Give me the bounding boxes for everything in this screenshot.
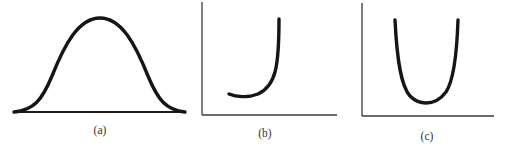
panel-c: (c) <box>362 3 494 143</box>
curve-shapes-figure: (a) (b) (c) <box>0 0 506 155</box>
panel-a-bell-curve <box>14 18 185 112</box>
panel-a-caption: (a) <box>94 124 107 137</box>
panel-b-caption: (b) <box>258 127 272 140</box>
panel-a: (a) <box>14 18 185 137</box>
panel-c-u-curve <box>395 20 458 103</box>
panel-c-caption: (c) <box>421 130 434 143</box>
panel-b: (b) <box>202 2 337 140</box>
panel-b-j-curve <box>229 19 279 97</box>
